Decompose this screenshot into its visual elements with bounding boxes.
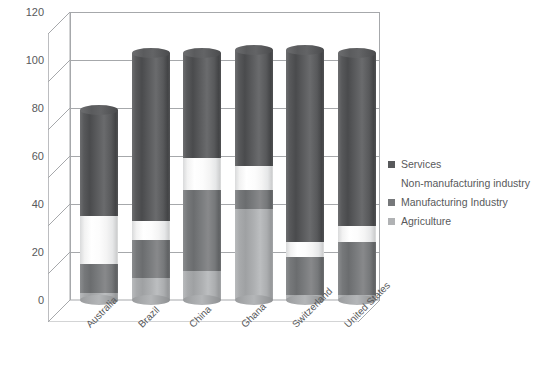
cylinder-top-cap <box>80 105 118 115</box>
segment-manufacturing-industry <box>183 190 221 272</box>
cylinder <box>80 110 118 300</box>
cylinder-top-cap <box>338 48 376 58</box>
segment-non-manufacturing-industry <box>132 221 170 240</box>
bar-brazil[interactable] <box>132 53 170 300</box>
cylinder <box>183 53 221 300</box>
cylinder-top-cap <box>132 48 170 58</box>
segment-manufacturing-industry <box>338 242 376 295</box>
cylinder-bottom-cap <box>132 295 170 305</box>
chart-legend: ServicesNon-manufacturing industryManufa… <box>388 155 546 231</box>
segment-manufacturing-industry <box>132 240 170 278</box>
cylinder-bottom-cap <box>183 295 221 305</box>
y-tick-120: 120 <box>4 7 44 18</box>
cylinder-top-cap <box>183 48 221 58</box>
legend-label: Services <box>401 158 441 170</box>
cylinder <box>338 53 376 300</box>
legend-swatch-icon <box>388 218 395 225</box>
legend-item-services[interactable]: Services <box>388 155 546 173</box>
legend-label: Non-manufacturing industry <box>401 177 530 189</box>
segment-non-manufacturing-industry <box>183 158 221 189</box>
y-axis: 120 100 80 60 40 20 0 <box>0 12 44 322</box>
segment-non-manufacturing-industry <box>235 166 273 190</box>
segment-manufacturing-industry <box>80 264 118 293</box>
segment-non-manufacturing-industry <box>286 242 324 256</box>
y-tick-0: 0 <box>4 295 44 306</box>
bar-australia[interactable] <box>80 110 118 300</box>
cylinder <box>235 50 273 300</box>
segment-services <box>338 53 376 226</box>
segment-agriculture <box>235 209 273 300</box>
segment-services <box>132 53 170 221</box>
bar-switzerland[interactable] <box>286 50 324 300</box>
bar-united-states[interactable] <box>338 53 376 300</box>
y-tick-40: 40 <box>4 199 44 210</box>
legend-swatch-icon <box>388 180 395 187</box>
x-axis-labels: AustraliaBrazilChinaGhanaSwitzerlandUnit… <box>48 318 398 388</box>
bar-china[interactable] <box>183 53 221 300</box>
segment-non-manufacturing-industry <box>80 216 118 264</box>
legend-swatch-icon <box>388 199 395 206</box>
legend-item-agriculture[interactable]: Agriculture <box>388 212 546 230</box>
legend-item-non-manufacturing-industry[interactable]: Non-manufacturing industry <box>388 174 546 192</box>
legend-swatch-icon <box>388 161 395 168</box>
y-tick-100: 100 <box>4 55 44 66</box>
segment-services <box>183 53 221 159</box>
segment-services <box>80 110 118 216</box>
cylinder-top-cap <box>286 45 324 55</box>
legend-item-manufacturing-industry[interactable]: Manufacturing Industry <box>388 193 546 211</box>
y-tick-20: 20 <box>4 247 44 258</box>
chart-container: 120 100 80 60 40 20 0 AustraliaBrazilChi… <box>0 0 546 389</box>
segment-non-manufacturing-industry <box>338 226 376 243</box>
cylinder <box>286 50 324 300</box>
cylinder-bottom-cap <box>235 295 273 305</box>
segment-services <box>286 50 324 242</box>
bars-layer <box>48 12 388 322</box>
y-tick-60: 60 <box>4 151 44 162</box>
legend-label: Manufacturing Industry <box>401 196 508 208</box>
segment-manufacturing-industry <box>286 257 324 295</box>
segment-manufacturing-industry <box>235 190 273 209</box>
y-tick-80: 80 <box>4 103 44 114</box>
segment-services <box>235 50 273 165</box>
cylinder <box>132 53 170 300</box>
bar-ghana[interactable] <box>235 50 273 300</box>
cylinder-top-cap <box>235 45 273 55</box>
legend-label: Agriculture <box>401 215 451 227</box>
